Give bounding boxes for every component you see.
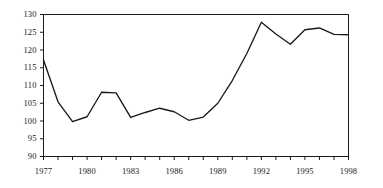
- x-tick-label: 1977: [27, 167, 61, 176]
- x-tick-label: 1986: [157, 167, 191, 176]
- x-tick-label: 1998: [332, 167, 366, 176]
- y-tick-label: 105: [15, 99, 37, 108]
- x-axis-ticks: [44, 157, 349, 161]
- y-axis-ticks: [40, 15, 44, 157]
- y-tick-label: 120: [15, 46, 37, 55]
- x-tick-label: 1992: [244, 167, 278, 176]
- y-tick-label: 110: [15, 81, 37, 90]
- chart-plot-area: [0, 0, 383, 188]
- y-tick-label: 90: [15, 152, 37, 161]
- x-tick-label: 1995: [288, 167, 322, 176]
- y-tick-label: 115: [15, 63, 37, 72]
- line-chart: 9095100105110115120125130 19771980198319…: [0, 0, 383, 188]
- y-tick-label: 95: [15, 134, 37, 143]
- data-series-line: [44, 22, 349, 121]
- x-tick-label: 1989: [201, 167, 235, 176]
- x-tick-label: 1983: [114, 167, 148, 176]
- y-tick-label: 130: [15, 10, 37, 19]
- plot-frame: [44, 15, 349, 157]
- y-tick-label: 100: [15, 117, 37, 126]
- y-tick-label: 125: [15, 28, 37, 37]
- x-tick-label: 1980: [70, 167, 104, 176]
